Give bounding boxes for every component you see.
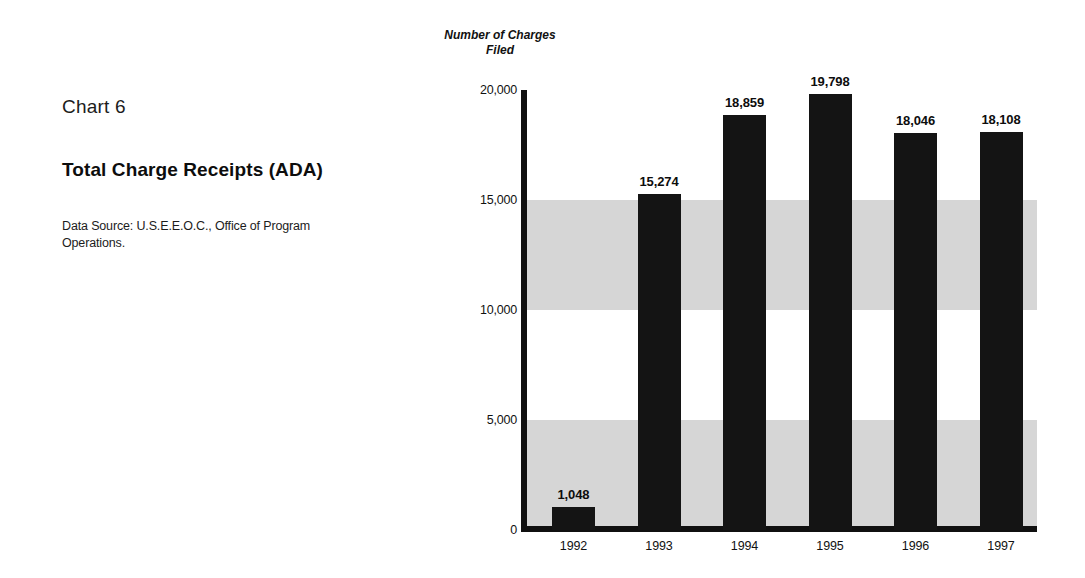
x-tick-label: 1996 [871, 540, 961, 553]
bar-chart: Number of Charges Filed 05,00010,00015,0… [0, 0, 1085, 578]
chart-page: Chart 6 Total Charge Receipts (ADA) Data… [0, 0, 1085, 578]
bar-1996 [894, 133, 937, 530]
bar-value-label: 19,798 [785, 75, 875, 88]
bar-value-label: 18,046 [871, 114, 961, 127]
y-axis-line [521, 90, 527, 531]
y-tick-label: 10,000 [435, 304, 517, 317]
y-tick-label: 0 [435, 524, 517, 537]
shaded-band [527, 200, 1037, 310]
bar-value-label: 18,108 [956, 113, 1046, 126]
bar-value-label: 15,274 [614, 175, 704, 188]
bar-value-label: 1,048 [529, 488, 619, 501]
x-tick-label: 1997 [956, 540, 1046, 553]
shaded-band [527, 420, 1037, 530]
x-tick-label: 1994 [700, 540, 790, 553]
x-tick-label: 1995 [785, 540, 875, 553]
bar-1992 [552, 507, 595, 530]
x-tick-label: 1993 [614, 540, 704, 553]
bar-1997 [980, 132, 1023, 530]
bar-1994 [723, 115, 766, 530]
y-tick-label: 5,000 [435, 414, 517, 427]
y-tick-label: 20,000 [435, 84, 517, 97]
y-axis-title: Number of Charges Filed [440, 28, 560, 58]
bar-1993 [638, 194, 681, 530]
x-axis-line [521, 526, 1037, 532]
bar-1995 [809, 94, 852, 530]
x-tick-label: 1992 [529, 540, 619, 553]
y-tick-label: 15,000 [435, 194, 517, 207]
bar-value-label: 18,859 [700, 96, 790, 109]
plot-area [527, 90, 1037, 530]
